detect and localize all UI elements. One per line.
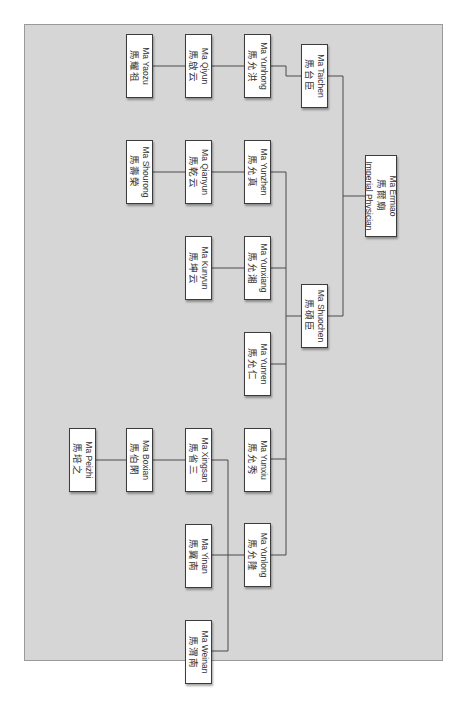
node-name-zh: 馬允秀 [246, 440, 258, 480]
node-ma-kunyun: Ma Kunyun馬坤云 [185, 236, 212, 300]
node-title: Imperial Physician [365, 162, 375, 231]
node-name-zh: 馬爾廟 [375, 162, 387, 231]
node-ma-qiyun: Ma Qiyun馬啟云 [185, 34, 212, 98]
node-name-zh: 馬省三 [187, 438, 199, 483]
node-name-zh: 馬允湘 [246, 244, 258, 293]
node-name-en: Ma Yunzhen [258, 148, 270, 195]
node-name-en: Ma Kunyun [199, 247, 211, 290]
node-ma-ermiao: Ma Ermiao 馬爾廟 Imperial Physician [365, 155, 397, 237]
node-name-zh: 馬培之 [71, 441, 83, 478]
node-ma-qianyun: Ma Qianyun馬乾云 [185, 140, 212, 204]
node-name-en: Ma Yaozu [140, 47, 152, 85]
node-name-en: Ma Yunren [258, 344, 270, 385]
node-ma-taichen: Ma Taichen馬台臣 [301, 44, 328, 108]
connector-lines [0, 0, 462, 724]
node-name-zh: 馬台臣 [303, 54, 315, 97]
node-ma-yunxiang: Ma Yunxiang馬允湘 [244, 236, 271, 300]
node-ma-yunlong: Ma Yunlong馬允隆 [244, 523, 271, 587]
node-name-zh: 馬啟云 [187, 48, 199, 84]
node-name-zh: 馬伯閑 [128, 440, 140, 480]
node-name-zh: 馬允洪 [246, 42, 258, 90]
node-name-zh: 馬允隆 [246, 533, 258, 578]
node-ma-yunren: Ma Yunren馬允仁 [244, 332, 271, 396]
node-name-zh: 馬允仁 [246, 344, 258, 385]
node-ma-yinan: Ma Yinan馬翼南 [185, 524, 212, 588]
node-name-en: Ma Weinan [199, 631, 211, 674]
node-ma-shourong: Ma Shourong馬壽榮 [126, 140, 153, 204]
node-name-en: Ma Qianyun [199, 149, 211, 195]
node-name-en: Ma Ermiao [387, 162, 397, 231]
node-name-zh: 馬乾云 [187, 149, 199, 195]
node-ma-yunxiu: Ma Yunxiu馬允秀 [244, 428, 271, 492]
node-name-en: Ma Xingsan [199, 438, 211, 483]
node-ma-weinan: Ma Weinan馬渭南 [185, 620, 212, 684]
node-ma-yaozu: Ma Yaozu馬耀祖 [126, 34, 153, 98]
node-name-en: Ma Yunxiu [258, 440, 270, 480]
node-name-en: Ma Peizhi [83, 441, 95, 478]
node-name-zh: 馬壽榮 [128, 146, 140, 197]
node-ma-yunhong: Ma Yunhong馬允洪 [244, 34, 271, 98]
node-name-zh: 馬耀祖 [128, 47, 140, 85]
node-ma-boxian: Ma Boxian馬伯閑 [126, 428, 153, 492]
node-ma-xingsan: Ma Xingsan馬省三 [185, 428, 212, 492]
node-name-en: Ma Yunlong [258, 533, 270, 578]
node-ma-yunzhen: Ma Yunzhen馬允真 [244, 140, 271, 204]
node-name-en: Ma Qiyun [199, 48, 211, 84]
node-name-en: Ma Yinan [199, 538, 211, 573]
node-name-en: Ma Shourong [140, 146, 152, 197]
node-name-zh: 馬坤云 [187, 247, 199, 290]
node-name-en: Ma Yunxiang [258, 244, 270, 293]
node-name-zh: 馬渭南 [187, 631, 199, 674]
node-name-en: Ma Yunhong [258, 42, 270, 90]
node-ma-shuochen: Ma Shuochen馬碩臣 [301, 284, 328, 348]
node-name-zh: 馬翼南 [187, 538, 199, 573]
node-name-en: Ma Shuochen [315, 290, 327, 342]
node-ma-peizhi: Ma Peizhi馬培之 [69, 428, 96, 492]
node-name-en: Ma Taichen [315, 54, 327, 97]
node-name-zh: 馬碩臣 [303, 290, 315, 342]
node-name-en: Ma Boxian [140, 440, 152, 480]
node-name-zh: 馬允真 [246, 148, 258, 195]
